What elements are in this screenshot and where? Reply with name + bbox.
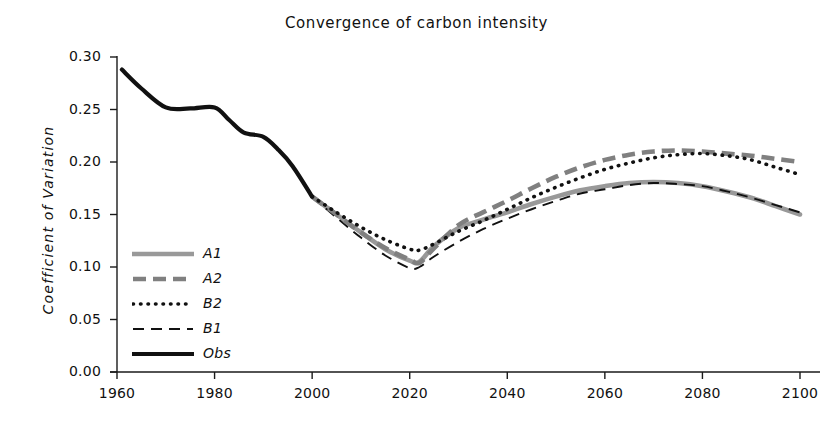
legend-label-a1: A1	[203, 245, 222, 261]
series-line-obs	[122, 70, 312, 197]
legend-item-b2[interactable]: B2	[132, 290, 282, 315]
legend-label-obs: Obs	[203, 345, 231, 361]
legend-item-a1[interactable]: A1	[132, 240, 282, 265]
series-line-b2	[312, 154, 800, 251]
chart-container: Convergence of carbon intensity Coeffici…	[0, 0, 833, 437]
chart-legend: A1A2B2B1Obs	[132, 240, 282, 365]
legend-swatch-b2	[132, 296, 194, 310]
series-line-a2	[312, 150, 800, 263]
plot-area	[0, 0, 833, 437]
legend-item-b1[interactable]: B1	[132, 315, 282, 340]
legend-item-a2[interactable]: A2	[132, 265, 282, 290]
legend-swatch-a2	[132, 271, 194, 285]
legend-label-b2: B2	[203, 295, 222, 311]
legend-item-obs[interactable]: Obs	[132, 340, 282, 365]
legend-label-a2: A2	[203, 270, 222, 286]
legend-swatch-obs	[132, 346, 194, 360]
series-line-a1	[312, 182, 800, 263]
legend-label-b1: B1	[203, 320, 222, 336]
legend-swatch-b1	[132, 321, 194, 335]
legend-swatch-a1	[132, 246, 194, 260]
